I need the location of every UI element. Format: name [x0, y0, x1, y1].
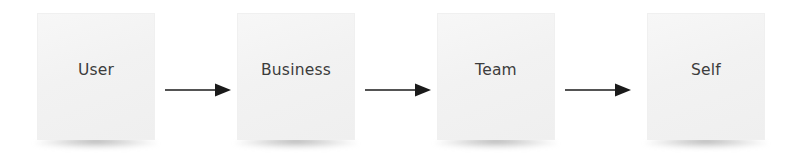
arrow-right-icon: [165, 80, 233, 100]
flow-node-label: Business: [261, 63, 331, 79]
flow-node-business[interactable]: Business: [237, 13, 355, 140]
flow-node-label: Team: [475, 63, 517, 79]
flow-diagram: User Business Team Self: [0, 0, 804, 166]
flow-node-label: Self: [691, 63, 721, 79]
arrow-right-icon: [565, 80, 633, 100]
flow-node-label: User: [78, 63, 114, 79]
flow-node-team[interactable]: Team: [437, 13, 555, 140]
flow-node-user[interactable]: User: [37, 13, 155, 140]
flow-node-self[interactable]: Self: [647, 13, 765, 140]
arrow-right-icon: [365, 80, 433, 100]
